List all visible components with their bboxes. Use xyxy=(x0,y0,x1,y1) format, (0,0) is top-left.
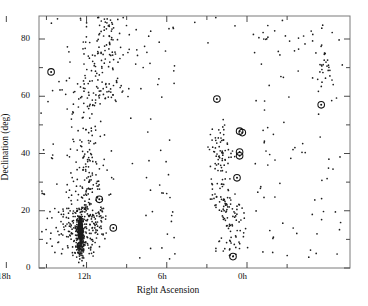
circled-object-marker xyxy=(48,69,55,76)
x-tick-label: 0h xyxy=(238,271,247,281)
circled-object-marker xyxy=(214,96,221,103)
circled-object-marker xyxy=(234,175,241,182)
x-tick-label: 12h xyxy=(78,271,92,281)
axis-ticks xyxy=(6,16,350,268)
y-tick-label: 20 xyxy=(21,205,30,215)
x-tick-label: 18h xyxy=(0,271,11,281)
plot-frame xyxy=(39,16,350,268)
circled-object-marker xyxy=(230,253,237,260)
figure-root: Right Ascension Declination (deg) 12h6h0… xyxy=(0,0,368,306)
x-tick-label: 6h xyxy=(158,271,167,281)
y-tick-label: 80 xyxy=(21,33,30,43)
x-axis-title: Right Ascension xyxy=(137,285,200,295)
data-points-layer xyxy=(40,17,343,267)
circled-object-marker xyxy=(110,225,117,232)
y-tick-label: 40 xyxy=(21,148,30,158)
scatter-plot-canvas xyxy=(0,0,368,306)
y-tick-label: 0 xyxy=(26,262,31,272)
y-tick-label: 60 xyxy=(21,90,30,100)
circled-object-marker xyxy=(318,102,325,109)
circled-object-marker xyxy=(236,153,243,160)
y-axis-title: Declination (deg) xyxy=(0,114,10,181)
circled-objects-layer xyxy=(48,69,325,260)
